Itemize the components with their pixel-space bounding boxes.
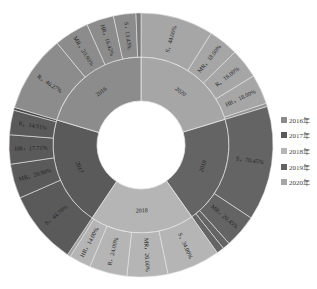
legend: 2016年 2017年 2018年 2019年 2020年	[281, 112, 310, 190]
legend-swatch-2017	[281, 132, 287, 138]
legend-swatch-2016	[281, 117, 287, 123]
legend-label: 2016年	[289, 115, 310, 125]
legend-item-2019[interactable]: 2019年	[281, 159, 310, 175]
legend-swatch-2020	[281, 179, 287, 185]
legend-label: 2018年	[289, 146, 310, 156]
legend-swatch-2019	[281, 164, 287, 170]
inner-label-2018: 2018	[136, 207, 148, 213]
legend-swatch-2018	[281, 148, 287, 154]
legend-item-2018[interactable]: 2018年	[281, 143, 310, 159]
legend-item-2017[interactable]: 2017年	[281, 128, 310, 144]
legend-label: 2019年	[289, 162, 310, 172]
legend-label: 2017年	[289, 130, 310, 140]
sunburst-chart: 2020S，44.00%MR，18.00%R，18.00%HR，18.00%20…	[0, 0, 317, 289]
legend-item-2020[interactable]: 2020年	[281, 174, 310, 190]
legend-label: 2020年	[289, 177, 310, 187]
legend-item-2016[interactable]: 2016年	[281, 112, 310, 128]
